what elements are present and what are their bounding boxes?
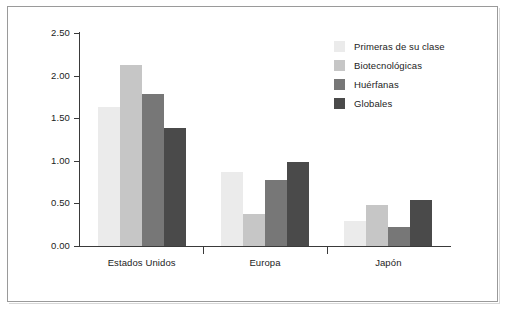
legend-swatch-icon [334,98,345,109]
legend-swatch-icon [334,79,345,90]
legend-label: Biotecnológicas [354,60,422,71]
y-axis-tick-label: 1.00 [26,155,70,166]
bar [221,172,243,246]
legend-item: Biotecnológicas [334,57,484,73]
bar [344,221,366,246]
bar [98,107,120,246]
bar [120,65,142,246]
legend-item: Primeras de su clase [334,38,484,54]
chart-legend: Primeras de su claseBiotecnológicasHuérf… [334,38,484,114]
bar [243,214,265,246]
x-axis-category-label: Japón [328,257,448,268]
bar [410,200,432,246]
bar [366,205,388,246]
y-axis-tick-mark [74,246,80,247]
x-axis-line [79,246,451,247]
bar [164,128,186,246]
legend-item: Globales [334,95,484,111]
y-axis-tick-label: 0.50 [26,197,70,208]
bar [265,180,287,246]
x-axis-tick-mark [203,247,204,254]
chart-figure: 0.000.501.001.502.002.50 Estados UnidosE… [0,0,511,318]
legend-swatch-icon [334,41,345,52]
bar [388,227,410,246]
y-axis-tick-label: 2.00 [26,70,70,81]
bar [287,162,309,246]
y-axis-tick-labels: 0.000.501.001.502.002.50 [26,0,70,318]
legend-label: Globales [354,98,392,109]
x-axis-category-label: Europa [205,257,325,268]
y-axis-tick-label: 2.50 [26,27,70,38]
y-axis-tick-label: 0.00 [26,240,70,251]
legend-label: Huérfanas [354,79,399,90]
x-axis-tick-mark [327,247,328,254]
x-axis-category-label: Estados Unidos [82,257,202,268]
y-axis-tick-label: 1.50 [26,112,70,123]
bar [142,94,164,247]
legend-item: Huérfanas [334,76,484,92]
legend-label: Primeras de su clase [354,41,445,52]
legend-swatch-icon [334,60,345,71]
